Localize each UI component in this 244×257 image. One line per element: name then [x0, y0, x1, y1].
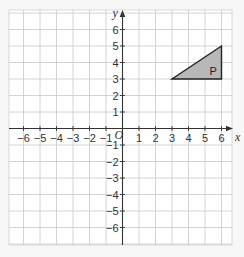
y-tick-label: 4	[112, 57, 118, 69]
x-tick-label: −5	[34, 132, 47, 144]
x-tick-label: −4	[50, 132, 63, 144]
y-tick-label: 3	[112, 73, 118, 85]
origin-label: O	[115, 128, 124, 142]
x-axis-label: x	[234, 130, 241, 144]
triangle-p-label: P	[210, 65, 217, 77]
x-tick-label: 4	[185, 132, 191, 144]
x-tick-label: −2	[83, 132, 96, 144]
x-tick-label: 3	[169, 132, 175, 144]
x-tick-label: 6	[218, 132, 224, 144]
y-tick-label: 6	[112, 24, 118, 36]
x-tick-label: −3	[67, 132, 80, 144]
y-tick-label: −6	[106, 222, 119, 234]
y-axis-label: y	[112, 6, 119, 20]
y-tick-label: 1	[112, 106, 118, 118]
y-tick-label: −2	[106, 156, 119, 168]
coordinate-grid: −6−5−4−3−2−1123456654321−1−2−3−4−5−6 P x…	[0, 0, 244, 257]
y-tick-label: 5	[112, 40, 118, 52]
y-tick-label: −4	[106, 189, 119, 201]
x-tick-label: 1	[136, 132, 142, 144]
x-tick-label: 5	[202, 132, 208, 144]
y-tick-label: −3	[106, 172, 119, 184]
x-tick-label: 2	[152, 132, 158, 144]
y-tick-label: −5	[106, 205, 119, 217]
y-tick-label: 2	[112, 90, 118, 102]
x-tick-label: −6	[17, 132, 30, 144]
